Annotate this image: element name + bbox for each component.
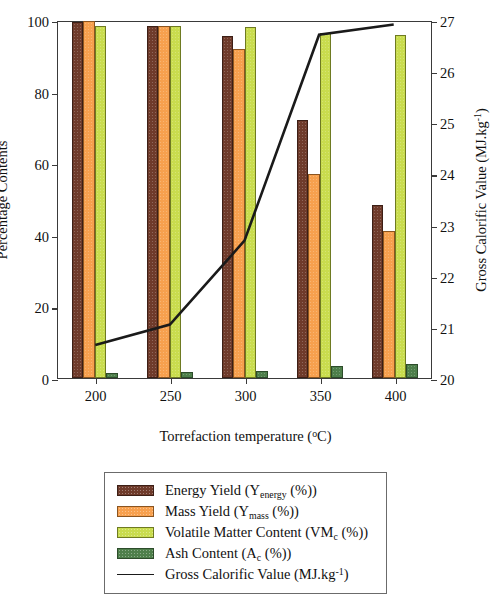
x-tick-label-400: 400 <box>385 388 407 405</box>
legend-label-line: Gross Calorific Value (MJ.kg-1) <box>165 566 349 583</box>
y-left-tick-label-40: 40 <box>35 228 50 245</box>
y-left-tick-label-80: 80 <box>35 85 50 102</box>
legend-item-ash: Ash Content (Ac (%)) <box>117 543 376 564</box>
figure-root: Percentage Contents Gross Calorific Valu… <box>0 0 491 608</box>
legend-label-energy: Energy Yield (Yenergy (%)) <box>165 482 317 500</box>
x-tick-mark-200 <box>96 378 97 384</box>
y-right-tick-mark-23 <box>431 227 437 228</box>
y-right-tick-label-20: 20 <box>440 372 455 389</box>
y-axis-right-title-sup: -1 <box>472 113 483 121</box>
y-right-tick-mark-26 <box>431 73 437 74</box>
legend-item-vm: Volatile Matter Content (VMc (%)) <box>117 522 376 543</box>
y-right-tick-label-26: 26 <box>440 65 455 82</box>
y-right-tick-label-24: 24 <box>440 167 455 184</box>
y-left-tick-mark-20 <box>52 308 58 309</box>
legend-swatch-energy-icon <box>117 485 154 496</box>
y-left-tick-mark-0 <box>52 380 58 381</box>
legend-label-vm: Volatile Matter Content (VMc (%)) <box>165 524 368 542</box>
x-axis-title-post: C) <box>317 428 332 444</box>
chart-legend: Energy Yield (Yenergy (%))Mass Yield (Ym… <box>104 472 387 594</box>
legend-item-energy: Energy Yield (Yenergy (%)) <box>117 480 376 501</box>
y-axis-left-title-text: Percentage Contents <box>0 141 10 260</box>
x-tick-label-350: 350 <box>310 388 332 405</box>
x-tick-mark-250 <box>171 378 172 384</box>
legend-item-line: Gross Calorific Value (MJ.kg-1) <box>117 564 376 585</box>
legend-swatch-vm-icon <box>117 527 154 538</box>
legend-label-mass: Mass Yield (Ymass (%)) <box>165 503 299 521</box>
y-left-tick-mark-60 <box>52 165 58 166</box>
y-left-tick-label-0: 0 <box>42 372 49 389</box>
y-left-tick-label-100: 100 <box>27 14 49 31</box>
y-right-tick-mark-22 <box>431 278 437 279</box>
y-right-tick-mark-21 <box>431 329 437 330</box>
y-right-tick-label-25: 25 <box>440 116 455 133</box>
y-left-tick-label-20: 20 <box>35 300 50 317</box>
legend-item-mass: Mass Yield (Ymass (%)) <box>117 501 376 522</box>
y-right-tick-label-23: 23 <box>440 218 455 235</box>
x-axis-title-pre: Torrefaction temperature ( <box>159 428 312 444</box>
y-right-tick-mark-25 <box>431 124 437 125</box>
x-tick-label-200: 200 <box>85 388 107 405</box>
gcv-line <box>95 25 393 345</box>
y-right-tick-mark-24 <box>431 175 437 176</box>
gcv-line-layer <box>58 22 431 378</box>
legend-swatch-ash-icon <box>117 548 154 559</box>
y-right-tick-label-22: 22 <box>440 269 455 286</box>
legend-label-ash: Ash Content (Ac (%)) <box>165 545 291 563</box>
plot-area: 100806040200 2726252423222120 2002503003… <box>57 21 432 379</box>
y-left-tick-mark-100 <box>52 22 58 23</box>
x-tick-mark-350 <box>321 378 322 384</box>
y-left-tick-mark-40 <box>52 237 58 238</box>
y-right-tick-label-27: 27 <box>440 14 455 31</box>
y-left-tick-mark-80 <box>52 94 58 95</box>
y-axis-right-title: Gross Calorific Value (MJ.kg-1) <box>472 108 489 292</box>
x-tick-label-250: 250 <box>160 388 182 405</box>
y-axis-right-title-post: ) <box>473 108 489 113</box>
x-axis-title: Torrefaction temperature (oC) <box>0 428 491 445</box>
y-axis-right-title-pre: Gross Calorific Value (MJ.kg <box>473 121 489 292</box>
y-axis-left-title: Percentage Contents <box>0 141 11 260</box>
y-right-tick-mark-20 <box>431 380 437 381</box>
x-tick-mark-300 <box>246 378 247 384</box>
legend-swatch-line-icon <box>117 569 154 580</box>
y-left-tick-label-60: 60 <box>35 157 50 174</box>
x-tick-mark-400 <box>396 378 397 384</box>
y-right-tick-mark-27 <box>431 22 437 23</box>
y-right-tick-label-21: 21 <box>440 320 455 337</box>
legend-swatch-mass-icon <box>117 506 154 517</box>
x-tick-label-300: 300 <box>235 388 257 405</box>
